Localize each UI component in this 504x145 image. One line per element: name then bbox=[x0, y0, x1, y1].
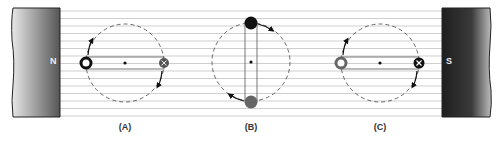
south-pole-label: S bbox=[446, 56, 452, 66]
generator-rotation-diagram: N S (A) (B) (C) bbox=[0, 0, 504, 145]
panel-a-label: (A) bbox=[110, 122, 140, 132]
north-pole-label: N bbox=[50, 56, 57, 66]
panel-b-label: (B) bbox=[236, 122, 266, 132]
panel-b-loop bbox=[212, 17, 290, 109]
panel-c-label: (C) bbox=[365, 122, 395, 132]
